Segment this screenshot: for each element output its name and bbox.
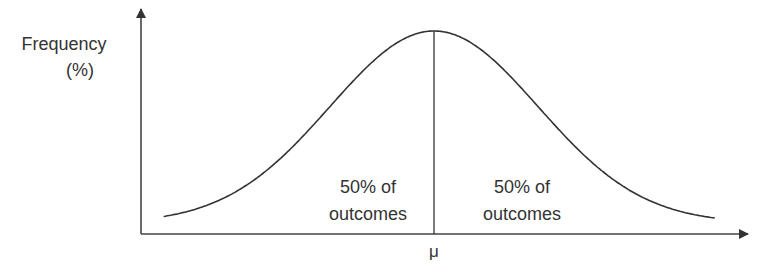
- chart-canvas: Frequency (%) 50% of outcomes 50% of out…: [0, 0, 764, 275]
- right-region-label-line-2: outcomes: [483, 204, 561, 224]
- distribution-curve: [164, 31, 715, 218]
- normal-distribution-chart: Frequency (%) 50% of outcomes 50% of out…: [0, 0, 764, 275]
- right-region-label-line-1: 50% of: [494, 177, 551, 197]
- x-tick-label-mean: μ: [429, 242, 439, 261]
- y-axis-label-line-1: Frequency: [21, 34, 106, 54]
- y-axis-label-line-2: (%): [66, 60, 94, 80]
- left-region-label-line-1: 50% of: [340, 177, 397, 197]
- left-region-label-line-2: outcomes: [329, 204, 407, 224]
